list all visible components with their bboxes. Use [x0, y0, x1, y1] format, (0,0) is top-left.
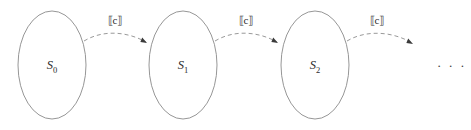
transition-label-s0-s1: ⟦c⟧: [108, 14, 123, 26]
state-transition-diagram: S0 S1 S2 ⟦c⟧ ⟦c⟧: [0, 0, 471, 130]
transition-label-s2-ellipsis: ⟦c⟧: [370, 14, 385, 26]
transition-arc-s1-s2: [215, 33, 277, 42]
arrow-head-s2-ellipsis: [406, 38, 414, 46]
transition-s1-to-s2: ⟦c⟧: [215, 14, 279, 45]
diagram-canvas: S0 S1 S2 ⟦c⟧ ⟦c⟧: [0, 0, 471, 130]
transition-s0-to-s1: ⟦c⟧: [84, 14, 148, 45]
arrow-head-s1-s2: [271, 37, 279, 45]
arrow-head-s0-s1: [140, 37, 148, 45]
state-label-subscript: 1: [184, 65, 188, 75]
continuation-ellipsis: · · ·: [437, 58, 467, 73]
state-label-subscript: 0: [53, 65, 57, 75]
transition-s2-to-ellipsis: ⟦c⟧: [347, 14, 414, 46]
state-node-s0: S0: [18, 11, 86, 119]
state-label-s0: S0: [47, 58, 58, 75]
transition-arc-s0-s1: [84, 33, 146, 42]
state-label-s2: S2: [310, 58, 321, 75]
state-label-subscript: 2: [316, 65, 320, 75]
transition-arc-s2-ellipsis: [347, 33, 412, 43]
transition-label-s1-s2: ⟦c⟧: [239, 14, 254, 26]
state-node-s2: S2: [281, 11, 349, 119]
state-label-s1: S1: [178, 58, 189, 75]
state-node-s1: S1: [149, 11, 217, 119]
